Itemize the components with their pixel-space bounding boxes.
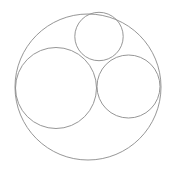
left-large-circle	[16, 48, 97, 129]
outer-circle	[15, 14, 161, 160]
top-small-circle	[75, 12, 123, 60]
tangent-circles-diagram	[0, 0, 170, 174]
right-medium-circle	[97, 55, 160, 118]
